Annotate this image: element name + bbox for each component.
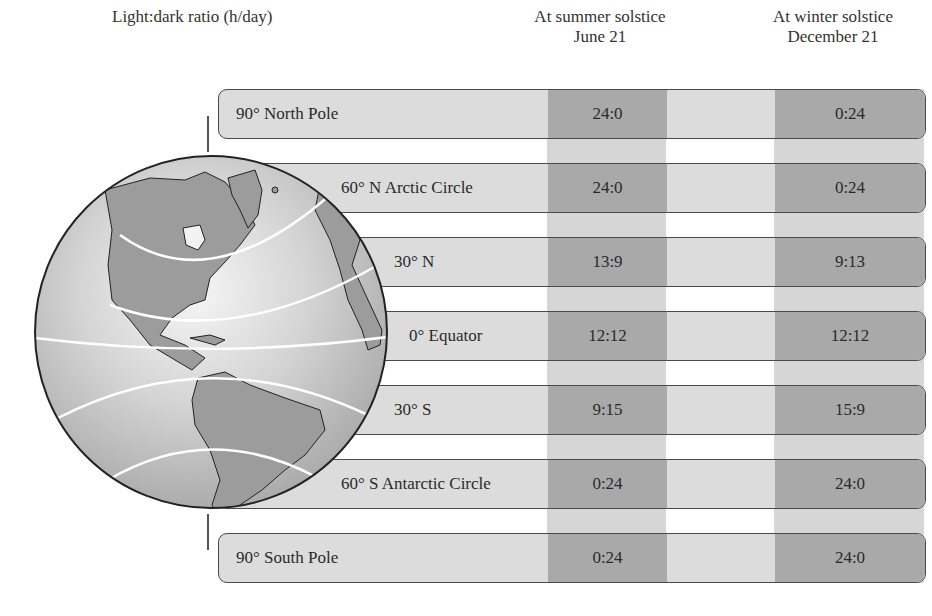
globe-icon xyxy=(0,0,932,616)
